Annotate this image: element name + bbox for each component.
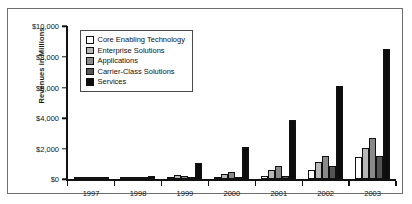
bar: [235, 177, 242, 180]
bar-group: [302, 26, 349, 179]
bar: [102, 177, 109, 179]
y-axis-tick-mark: [62, 87, 67, 88]
legend-label: Enterprise Solutions: [98, 47, 165, 55]
legend-label: Carrier-Class Solutions: [98, 68, 175, 76]
y-axis-tick-mark: [62, 117, 67, 118]
legend-label: Services: [98, 78, 127, 86]
bar-group: [255, 26, 302, 179]
bar: [308, 170, 315, 179]
legend-swatch: [86, 78, 94, 86]
legend-swatch: [86, 68, 94, 76]
y-axis-tick-mark: [62, 26, 67, 27]
x-axis-tick-label: 1998: [115, 189, 162, 198]
x-axis-category: 1999: [161, 181, 208, 203]
x-axis-category: 2003: [349, 181, 396, 203]
bar: [221, 174, 228, 179]
x-axis-tick-label: 2003: [349, 189, 396, 198]
legend-swatch: [86, 36, 94, 44]
bar: [315, 162, 322, 180]
bar: [141, 177, 148, 179]
bar: [167, 177, 174, 179]
bar: [268, 170, 275, 180]
x-axis-tick-label: 2001: [255, 189, 302, 198]
x-axis-tick-label: 1997: [68, 189, 115, 198]
x-axis-ticks: 1997199819992000200120022003: [68, 181, 396, 203]
bar: [74, 177, 81, 179]
bar: [81, 177, 88, 179]
bar: [188, 177, 195, 179]
x-axis-tick-mark: [67, 181, 68, 186]
bar: [282, 176, 289, 180]
y-axis-tick-mark: [62, 56, 67, 57]
x-axis-category: 2000: [208, 181, 255, 203]
chart-figure: Revenues in Millions $0$2,000$4,000$6,00…: [0, 0, 412, 204]
x-axis-tick-label: 2002: [302, 189, 349, 198]
bar: [369, 138, 376, 179]
legend-item: Carrier-Class Solutions: [86, 66, 185, 76]
bar: [322, 156, 329, 179]
x-axis-tick-mark: [395, 181, 396, 186]
chart-frame: Revenues in Millions $0$2,000$4,000$6,00…: [7, 8, 403, 194]
x-axis-category: 2002: [302, 181, 349, 203]
bar: [275, 166, 282, 180]
x-axis-tick-mark: [348, 181, 349, 186]
bar-group: [349, 26, 396, 179]
bar: [261, 176, 268, 180]
x-axis-tick-mark: [302, 181, 303, 186]
bar: [181, 176, 188, 179]
legend-label: Core Enabling Technology: [98, 36, 185, 44]
bar: [195, 163, 202, 180]
bar: [95, 177, 102, 179]
y-axis-tick-mark: [62, 148, 67, 149]
bar-group: [208, 26, 255, 179]
bar: [127, 177, 134, 180]
y-axis-tick-mark: [62, 179, 67, 180]
bar: [228, 172, 235, 179]
legend-label: Applications: [98, 57, 138, 65]
bar: [289, 120, 296, 180]
x-axis-tick-mark: [208, 181, 209, 186]
bar: [329, 166, 336, 179]
bar: [362, 148, 369, 179]
legend-swatch: [86, 47, 94, 55]
bar: [242, 147, 249, 179]
bar: [174, 175, 181, 179]
x-axis-tick-label: 1999: [161, 189, 208, 198]
bar: [336, 86, 343, 179]
legend-item: Applications: [86, 56, 185, 66]
legend-item: Services: [86, 77, 185, 87]
legend-item: Enterprise Solutions: [86, 45, 185, 55]
x-axis-tick-mark: [255, 181, 256, 186]
bar: [383, 49, 390, 179]
bar: [355, 157, 362, 179]
bar: [134, 177, 141, 179]
x-axis-category: 1997: [68, 181, 115, 203]
x-axis-tick-label: 2000: [208, 189, 255, 198]
bar: [120, 177, 127, 179]
x-axis-category: 2001: [255, 181, 302, 203]
bar: [88, 177, 95, 179]
bar: [376, 156, 383, 180]
legend-swatch: [86, 57, 94, 65]
legend-item: Core Enabling Technology: [86, 35, 185, 45]
x-axis-category: 1998: [115, 181, 162, 203]
bar: [148, 176, 155, 180]
chart-legend: Core Enabling TechnologyEnterprise Solut…: [80, 30, 193, 92]
x-axis-tick-mark: [114, 181, 115, 186]
x-axis-tick-mark: [161, 181, 162, 186]
bar: [214, 177, 221, 180]
